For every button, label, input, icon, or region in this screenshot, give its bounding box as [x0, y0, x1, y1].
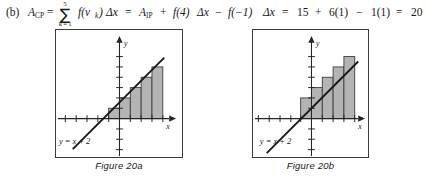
x-axis-arrowhead: [358, 115, 365, 121]
equals-3: =: [282, 7, 289, 19]
term-f-of-neg1: f(−1): [228, 7, 252, 19]
bar-rect: [333, 67, 344, 119]
plus-2: +: [315, 7, 322, 19]
bar-rect: [141, 77, 152, 118]
delta-x-3: Δx: [263, 7, 275, 19]
figure-20a-plot: x y y = x + 2: [55, 29, 183, 158]
y-axis-label: y: [315, 39, 320, 48]
summation-group: 5 ∑ k = 1: [54, 1, 76, 26]
figure-20b-block: x y y = x + 2 Figure 20b: [252, 29, 369, 171]
area-ip-symbol: A: [139, 7, 146, 19]
x-axis-label: x: [165, 122, 170, 131]
x-axis-arrowhead: [169, 115, 176, 121]
bar-rect: [130, 88, 141, 119]
term-f-of-4: f(4): [173, 7, 190, 19]
bar-rect: [152, 67, 163, 119]
figure-20a-caption: Figure 20a: [55, 160, 183, 171]
figure-20b-plot: x y y = x + 2: [252, 29, 369, 158]
plus-1: +: [160, 7, 167, 19]
delta-x-1: Δx: [106, 7, 118, 19]
part-label: (b): [6, 7, 19, 19]
function-label: y = x + 2: [259, 137, 291, 146]
figure-20a-svg: x y y = x + 2: [56, 30, 182, 157]
figure-20b-caption: Figure 20b: [252, 160, 369, 171]
delta-x-2: Δx: [197, 7, 209, 19]
figure-20a-block: x y y = x + 2 Figure 20a: [55, 29, 183, 171]
bar-rect: [322, 77, 333, 118]
formula-result: 20: [411, 7, 423, 19]
summand-close: ): [99, 7, 103, 19]
value-15: 15: [297, 7, 309, 19]
equals-2: =: [125, 7, 132, 19]
y-axis-arrowhead: [308, 36, 314, 43]
summation-lower-limit: k = 1: [54, 21, 76, 28]
area-cp-symbol: A: [28, 7, 35, 19]
summand-fv: f(v: [78, 7, 90, 19]
formula-line: (b) A CP = 5 ∑ k = 1 f(v k ) Δx = A IP +…: [0, 0, 435, 26]
minus-2: −: [356, 7, 363, 19]
y-axis-label: y: [123, 39, 128, 48]
figure-20b-svg: x y y = x + 2: [253, 30, 368, 157]
figure-20a-bars: [109, 67, 163, 119]
y-axis-arrowhead: [116, 36, 122, 43]
value-6-times-1: 6(1): [329, 7, 348, 19]
function-label: y = x + 2: [58, 137, 90, 146]
minus-1: −: [215, 7, 222, 19]
bar-rect: [109, 108, 120, 118]
area-ip-subscript: IP: [146, 7, 153, 19]
equals-1: =: [47, 7, 54, 19]
area-cp-subscript: CP: [35, 7, 44, 19]
summand-subscript: k: [95, 7, 98, 19]
value-1-times-1: 1(1): [371, 7, 390, 19]
equals-4: =: [396, 7, 403, 19]
x-axis-label: x: [357, 122, 362, 131]
